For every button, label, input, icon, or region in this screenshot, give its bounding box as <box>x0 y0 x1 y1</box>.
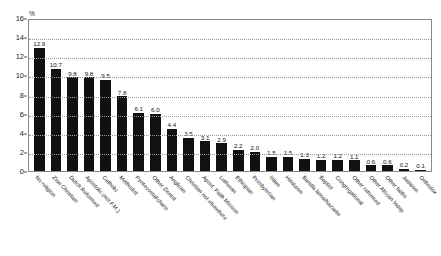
bar-value-label: 0.2 <box>400 162 409 168</box>
bar[interactable]: 0.2 <box>399 169 410 171</box>
x-axis-label-slot: Zion Christian <box>47 173 64 256</box>
x-axis-label-slot: Lutheran <box>213 173 230 256</box>
bar-value-label: 12.9 <box>33 41 45 47</box>
gridline <box>29 58 431 59</box>
bar-slot: 3.5 <box>180 20 197 171</box>
bar-value-label: 0.6 <box>383 159 392 165</box>
x-axis-label-slot: Dutch Reformed <box>63 173 80 256</box>
bar-value-label: 2.9 <box>217 137 226 143</box>
x-axis-label-slot: Anglican <box>163 173 180 256</box>
x-axis-label-slot: Pentecostal/charis <box>130 173 147 256</box>
y-axis-tick-label: 14 <box>16 34 24 42</box>
y-axis-tick-mark <box>24 133 27 134</box>
x-axis-label-slot: Judaism <box>397 173 414 256</box>
x-axis-tick-label: Islam <box>268 175 281 189</box>
y-axis-tick-mark <box>24 38 27 39</box>
gridline <box>29 39 431 40</box>
bar-slot: 7.8 <box>114 20 131 171</box>
bar-slot: 2.2 <box>230 20 247 171</box>
bar[interactable]: 3.1 <box>200 141 211 171</box>
bar-slot: 1.2 <box>313 20 330 171</box>
x-axis-label-slot: Methodist <box>113 173 130 256</box>
bar-value-label: 0.6 <box>367 159 376 165</box>
x-axis-label-slot: Catholic <box>97 173 114 256</box>
gridline <box>29 97 431 98</box>
bar-value-label: 2.0 <box>250 145 259 151</box>
bar-value-label: 4.4 <box>168 122 177 128</box>
x-axis-label-slot: Baptist <box>313 173 330 256</box>
bar[interactable]: 9.5 <box>100 80 111 171</box>
x-axis-label-slot: Other faiths <box>380 173 397 256</box>
bar-slot: 0.6 <box>363 20 380 171</box>
bar[interactable]: 6.0 <box>150 114 161 171</box>
bar[interactable]: 1.1 <box>349 160 360 171</box>
y-axis-tick-mark <box>24 152 27 153</box>
x-axis-label-slot: Hinduism <box>280 173 297 256</box>
bar[interactable]: 7.8 <box>117 96 128 171</box>
bar-slot: 1.1 <box>346 20 363 171</box>
bar-value-label: 9.8 <box>68 71 77 77</box>
bar-slot: 1.2 <box>329 20 346 171</box>
bar-value-label: 6.0 <box>151 107 160 113</box>
bar[interactable]: 9.8 <box>67 77 78 171</box>
bar[interactable]: 9.8 <box>84 77 95 171</box>
x-axis-labels: No religionZion ChristianDutch ReformedA… <box>28 173 432 256</box>
y-axis-unit-label: % <box>29 10 35 17</box>
x-axis-label-slot: Presbyterian <box>247 173 264 256</box>
bar-value-label: 7.8 <box>118 90 127 96</box>
bar[interactable]: 10.7 <box>51 69 62 171</box>
y-axis-tick-mark <box>24 19 27 20</box>
y-axis-tick-mark <box>24 172 27 173</box>
x-axis-label-slot: Bandla lama/Nazarite <box>297 173 314 256</box>
x-axis-label-slot: Christian not elsewhere <box>180 173 197 256</box>
gridline <box>29 135 431 136</box>
bar-slot: 9.8 <box>64 20 81 171</box>
bar[interactable]: 0.6 <box>366 165 377 171</box>
bar-slot: 1.5 <box>280 20 297 171</box>
bar-slot: 0.1 <box>412 20 429 171</box>
bar[interactable]: 12.9 <box>34 48 45 171</box>
x-axis-label-slot: Other reformed <box>347 173 364 256</box>
bar[interactable]: 0.1 <box>415 170 426 171</box>
bar[interactable]: 6.1 <box>133 113 144 171</box>
x-axis-label-slot: Orthodox <box>413 173 430 256</box>
gridline <box>29 154 431 155</box>
plot-area: 12.910.79.89.89.57.86.16.04.43.53.12.92.… <box>28 19 432 172</box>
y-axis: 0246810121416 <box>0 0 28 180</box>
y-axis-tick-mark <box>24 95 27 96</box>
bar-slot: 12.9 <box>31 20 48 171</box>
bar-series: 12.910.79.89.89.57.86.16.04.43.53.12.92.… <box>29 20 431 171</box>
bar-slot: 10.7 <box>48 20 65 171</box>
bar[interactable]: 1.2 <box>332 160 343 171</box>
y-axis-tick-mark <box>24 76 27 77</box>
bar-slot: 3.1 <box>197 20 214 171</box>
bar-slot: 6.0 <box>147 20 164 171</box>
bar-value-label: 10.7 <box>50 62 62 68</box>
bar-slot: 2.9 <box>213 20 230 171</box>
bar-slot: 9.5 <box>97 20 114 171</box>
bar[interactable]: 1.2 <box>316 160 327 171</box>
y-axis-tick-mark <box>24 114 27 115</box>
y-axis-tick-label: 10 <box>16 73 24 81</box>
bar[interactable]: 1.5 <box>283 157 294 171</box>
bar-value-label: 1.3 <box>300 152 309 158</box>
x-axis-label-slot: Apost. Faith Mission <box>197 173 214 256</box>
bar-value-label: 2.2 <box>234 143 243 149</box>
bar-value-label: 9.8 <box>85 71 94 77</box>
x-axis-label-slot: Other African Indep <box>363 173 380 256</box>
y-axis-tick-mark <box>24 57 27 58</box>
bar[interactable]: 1.5 <box>266 157 277 171</box>
bar[interactable]: 0.6 <box>382 165 393 171</box>
bar-slot: 4.4 <box>164 20 181 171</box>
x-axis-label-slot: Other Zionist <box>147 173 164 256</box>
bar-slot: 0.2 <box>396 20 413 171</box>
bar-slot: 0.6 <box>379 20 396 171</box>
bar[interactable]: 1.3 <box>299 159 310 171</box>
bar-value-label: 0.1 <box>416 163 425 169</box>
x-axis-label-slot: Islam <box>263 173 280 256</box>
bar-slot: 1.3 <box>296 20 313 171</box>
bar[interactable]: 2.9 <box>216 143 227 171</box>
x-axis-label-slot: Apostolic (not F.M.) <box>80 173 97 256</box>
bar-slot: 6.1 <box>130 20 147 171</box>
x-axis-label-slot: Congregational <box>330 173 347 256</box>
